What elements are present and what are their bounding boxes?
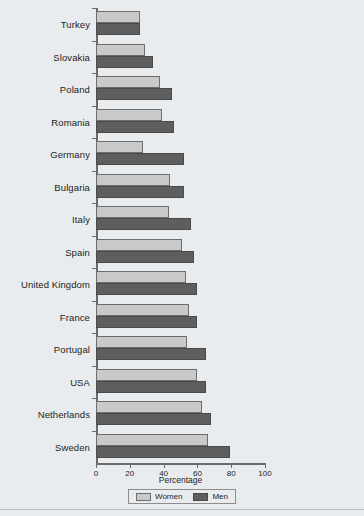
bar-men xyxy=(96,186,184,198)
y-axis-tick xyxy=(92,236,97,237)
chart-row: United Kingdom xyxy=(0,268,364,301)
x-axis-tick xyxy=(231,463,232,468)
y-axis-tick xyxy=(92,203,97,204)
x-axis-line: 020406080100 xyxy=(96,463,265,465)
category-label: France xyxy=(60,311,90,322)
bar-women xyxy=(96,76,160,88)
category-label: Poland xyxy=(60,84,90,95)
legend-swatch-men xyxy=(193,493,208,501)
chart-row: Italy xyxy=(0,203,364,236)
bar-women xyxy=(96,141,143,153)
x-axis-tick xyxy=(265,463,266,468)
y-axis-tick xyxy=(92,268,97,269)
chart-row: Romania xyxy=(0,106,364,139)
category-label: Slovakia xyxy=(53,51,90,62)
bar-chart-figure: TurkeySlovakiaPolandRomaniaGermanyBulgar… xyxy=(0,0,364,516)
bar-women xyxy=(96,239,182,251)
legend-label-women: Women xyxy=(155,492,182,501)
x-axis-title: Percentage xyxy=(96,475,265,485)
chart-row: France xyxy=(0,301,364,334)
chart-row: Netherlands xyxy=(0,398,364,431)
bar-men xyxy=(96,56,153,68)
bar-men xyxy=(96,23,140,35)
bar-women xyxy=(96,401,202,413)
y-axis-tick xyxy=(92,301,97,302)
category-label: Portugal xyxy=(54,344,90,355)
y-axis-tick xyxy=(92,73,97,74)
bar-men xyxy=(96,381,206,393)
bar-men xyxy=(96,283,197,295)
bar-men xyxy=(96,88,172,100)
x-axis-tick xyxy=(197,463,198,468)
y-axis-tick xyxy=(92,138,97,139)
y-axis-tick xyxy=(92,333,97,334)
y-axis-tick xyxy=(92,41,97,42)
category-label: Netherlands xyxy=(38,409,90,420)
bar-women xyxy=(96,109,162,121)
legend-label-men: Men xyxy=(212,492,228,501)
y-axis-tick xyxy=(92,8,97,9)
chart-row: Portugal xyxy=(0,333,364,366)
chart-row: Poland xyxy=(0,73,364,106)
chart-row: Turkey xyxy=(0,8,364,41)
bar-women xyxy=(96,174,170,186)
bar-men xyxy=(96,446,230,458)
x-axis-tick xyxy=(130,463,131,468)
chart-row: Bulgaria xyxy=(0,171,364,204)
chart-plot-area: TurkeySlovakiaPolandRomaniaGermanyBulgar… xyxy=(0,8,364,463)
category-label: Romania xyxy=(51,116,90,127)
y-axis-tick xyxy=(92,366,97,367)
bar-men xyxy=(96,251,194,263)
x-axis-tick xyxy=(164,463,165,468)
bar-women xyxy=(96,206,169,218)
y-axis-tick xyxy=(92,106,97,107)
bar-women xyxy=(96,11,140,23)
category-label: Sweden xyxy=(55,441,90,452)
legend-item-women: Women xyxy=(136,492,182,501)
x-axis-tick xyxy=(96,463,97,468)
bar-women xyxy=(96,44,145,56)
category-label: Italy xyxy=(72,214,90,225)
bar-men xyxy=(96,153,184,165)
bar-women xyxy=(96,434,208,446)
chart-row: USA xyxy=(0,366,364,399)
chart-row: Slovakia xyxy=(0,41,364,74)
y-axis-tick xyxy=(92,171,97,172)
bar-men xyxy=(96,121,174,133)
category-label: United Kingdom xyxy=(21,279,90,290)
bar-men xyxy=(96,218,191,230)
bar-men xyxy=(96,413,211,425)
category-label: Spain xyxy=(65,246,90,257)
bar-women xyxy=(96,369,197,381)
chart-row: Spain xyxy=(0,236,364,269)
category-label: Turkey xyxy=(61,19,90,30)
chart-legend: Women Men xyxy=(128,489,236,504)
category-label: Bulgaria xyxy=(54,181,90,192)
y-axis-tick xyxy=(92,431,97,432)
y-axis-tick xyxy=(92,398,97,399)
legend-item-men: Men xyxy=(193,492,228,501)
legend-swatch-women xyxy=(136,493,151,501)
bottom-divider xyxy=(0,509,364,510)
bar-men xyxy=(96,316,197,328)
bar-women xyxy=(96,271,186,283)
chart-row: Germany xyxy=(0,138,364,171)
bar-women xyxy=(96,304,189,316)
category-label: USA xyxy=(70,376,90,387)
chart-row: Sweden xyxy=(0,431,364,464)
bar-men xyxy=(96,348,206,360)
bar-women xyxy=(96,336,187,348)
category-label: Germany xyxy=(50,149,90,160)
